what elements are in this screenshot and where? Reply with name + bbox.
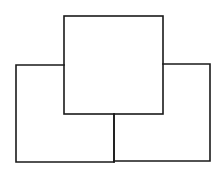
- right-rectangle: [114, 64, 210, 161]
- diagram-canvas: [0, 0, 222, 170]
- top-square: [64, 16, 163, 114]
